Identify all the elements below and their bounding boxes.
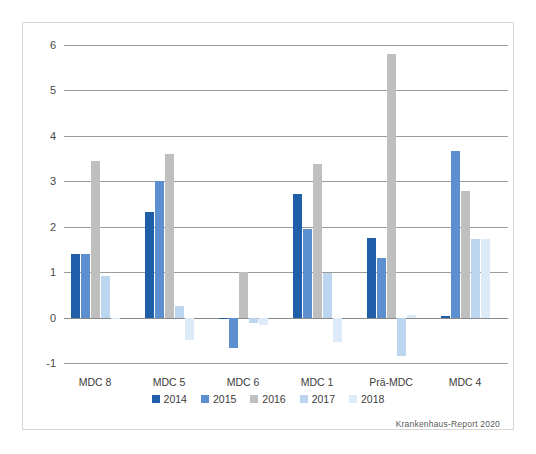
bar — [165, 154, 174, 318]
bar — [293, 194, 302, 318]
chart-figure: -10123456 MDC 8MDC 5MDC 6MDC 1Prä-MDCMDC… — [0, 0, 536, 454]
bar — [441, 316, 450, 317]
legend-item[interactable]: 2016 — [250, 393, 285, 405]
y-axis-tick-label: 5 — [50, 84, 56, 96]
bar — [81, 254, 90, 318]
y-axis-tick-label: -1 — [46, 357, 56, 369]
bar — [451, 151, 460, 317]
bar — [249, 318, 258, 324]
x-axis-category-label: MDC 4 — [449, 376, 482, 388]
gridline — [64, 363, 508, 364]
legend-label: 2014 — [164, 393, 187, 405]
bar — [71, 254, 80, 318]
bar — [313, 164, 322, 317]
bar — [377, 258, 386, 318]
legend-label: 2018 — [361, 393, 384, 405]
legend-swatch-icon — [250, 395, 258, 403]
bar — [185, 318, 194, 340]
bar — [471, 239, 480, 318]
bar — [111, 318, 120, 319]
bar-group — [64, 45, 138, 363]
bar — [397, 318, 406, 357]
bar — [229, 318, 238, 348]
bar — [323, 273, 332, 318]
bar — [101, 276, 110, 317]
bar — [303, 229, 312, 317]
x-axis-category-label: MDC 8 — [79, 376, 112, 388]
bar-group — [360, 45, 434, 363]
legend-label: 2016 — [262, 393, 285, 405]
bar-group — [138, 45, 212, 363]
source-note: Krankenhaus-Report 2020 — [396, 419, 500, 429]
chart-legend: 20142015201620172018 — [0, 393, 536, 405]
bar-group — [212, 45, 286, 363]
chart-plot-area: -10123456 — [64, 45, 508, 363]
bar — [333, 318, 342, 343]
x-axis-category-label: Prä-MDC — [369, 376, 413, 388]
bar — [175, 306, 184, 318]
legend-swatch-icon — [349, 395, 357, 403]
y-axis-tick-label: 1 — [50, 266, 56, 278]
legend-swatch-icon — [152, 395, 160, 403]
bar — [481, 239, 490, 318]
bar — [387, 54, 396, 317]
bar — [219, 318, 228, 319]
bar — [461, 191, 470, 318]
bar — [155, 181, 164, 317]
x-axis-category-label: MDC 1 — [301, 376, 334, 388]
legend-item[interactable]: 2017 — [300, 393, 335, 405]
legend-item[interactable]: 2014 — [152, 393, 187, 405]
bar-group — [286, 45, 360, 363]
bar — [91, 161, 100, 318]
x-axis-category-label: MDC 6 — [227, 376, 260, 388]
bar — [259, 318, 268, 325]
y-axis-tick-label: 3 — [50, 175, 56, 187]
y-axis-tick-label: 2 — [50, 221, 56, 233]
bar — [239, 272, 248, 318]
legend-swatch-icon — [201, 395, 209, 403]
bar — [367, 238, 376, 318]
y-axis-tick-label: 4 — [50, 130, 56, 142]
legend-item[interactable]: 2018 — [349, 393, 384, 405]
legend-item[interactable]: 2015 — [201, 393, 236, 405]
y-axis-tick-label: 6 — [50, 39, 56, 51]
bar-group — [434, 45, 508, 363]
legend-swatch-icon — [300, 395, 308, 403]
bar — [145, 212, 154, 317]
y-axis-tick-label: 0 — [50, 312, 56, 324]
legend-label: 2017 — [312, 393, 335, 405]
legend-label: 2015 — [213, 393, 236, 405]
x-axis-category-label: MDC 5 — [153, 376, 186, 388]
bar — [407, 315, 416, 318]
x-axis-labels: MDC 8MDC 5MDC 6MDC 1Prä-MDCMDC 4 — [64, 376, 508, 392]
